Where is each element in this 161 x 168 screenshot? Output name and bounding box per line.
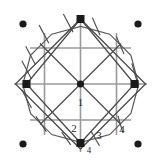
vertex-dot-right xyxy=(131,80,139,88)
angle-label-4-bottom: 4 xyxy=(87,145,92,155)
angle-label-4-right: 4 xyxy=(119,123,125,135)
edge-tick xyxy=(18,90,35,108)
center-dot xyxy=(77,80,84,87)
angle-label-2: 2 xyxy=(71,122,77,134)
geometry-figure-container: 1 2 3 4 4 xyxy=(0,0,161,168)
vertex-dot-bottom xyxy=(77,139,85,147)
vertex-dot-left xyxy=(23,80,31,88)
geometry-diagram: 1 2 3 4 4 xyxy=(0,0,161,168)
corner-dot-bottom-left xyxy=(19,140,26,147)
angle-label-1: 1 xyxy=(78,96,84,108)
corner-dot-top-right xyxy=(134,20,141,27)
corner-dot-bottom-right xyxy=(134,140,141,147)
corner-dot-top-left xyxy=(19,20,26,27)
vertex-dot-top xyxy=(77,15,85,23)
angle-label-3: 3 xyxy=(96,129,102,141)
